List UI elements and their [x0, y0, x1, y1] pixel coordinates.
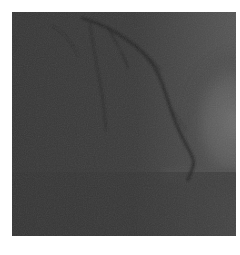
angiogram-graphic: [12, 12, 236, 236]
film-grain: [12, 12, 236, 236]
angiogram-image: [12, 12, 236, 236]
